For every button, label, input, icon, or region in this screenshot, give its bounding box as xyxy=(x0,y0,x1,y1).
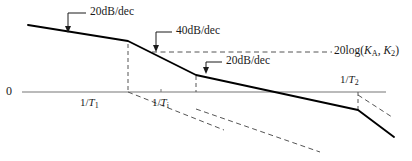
leader-slope-1 xyxy=(65,13,86,33)
leader-slope-3 xyxy=(203,62,222,74)
tick-1-numerator: 1/ xyxy=(80,96,89,108)
bode-plot-figure: 0 20dB/dec 40dB/dec 20dB/dec 20log(KA, K… xyxy=(0,0,412,161)
right-asymptote-dashed-line xyxy=(196,109,320,152)
tick-3-numerator: 1/ xyxy=(340,73,349,85)
tick-3-subscript: 2 xyxy=(355,78,359,87)
annotation-slope-1: 20dB/dec xyxy=(90,6,134,18)
axis-zero-label: 0 xyxy=(6,85,12,97)
annotation-slope-2: 40dB/dec xyxy=(176,25,220,37)
tick-label-break-2: 1/Ti xyxy=(152,97,169,110)
gain-k-second: K xyxy=(383,44,391,56)
tick-1-subscript: 1 xyxy=(95,101,99,110)
gain-suffix: ) xyxy=(395,44,399,56)
leader-slope-2 xyxy=(153,32,172,52)
tick-2-subscript: i xyxy=(167,101,169,110)
tick-label-break-3: 1/T2 xyxy=(340,74,359,87)
gain-reference-label: 20log(KA, K2) xyxy=(334,45,399,59)
tick-label-break-1: 1/T1 xyxy=(80,97,99,110)
lower-asymptote-dashed-line xyxy=(128,92,224,130)
gain-prefix: 20log( xyxy=(334,44,364,56)
annotation-slope-3: 20dB/dec xyxy=(226,55,270,67)
tick-2-numerator: 1/ xyxy=(152,96,161,108)
gain-k-first: K xyxy=(364,44,372,56)
